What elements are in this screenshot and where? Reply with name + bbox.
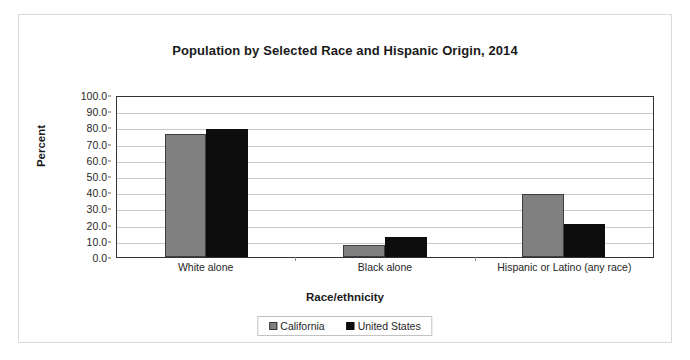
y-tick-label: 50.0 <box>87 171 107 183</box>
bar-united-states <box>564 224 606 257</box>
legend-swatch-icon <box>269 322 277 330</box>
y-tick-mark <box>108 209 111 210</box>
x-axis-title: Race/ethnicity <box>19 291 671 303</box>
y-tick-label: 30.0 <box>87 203 107 215</box>
y-tick-mark <box>108 144 111 145</box>
y-tick-mark <box>108 241 111 242</box>
x-tick-label: White alone <box>178 261 233 273</box>
y-tick-label: 60.0 <box>87 155 107 167</box>
bar-california <box>165 134 207 257</box>
legend-label: United States <box>358 320 421 332</box>
x-tick-mark <box>295 257 296 261</box>
chart-title: Population by Selected Race and Hispanic… <box>19 43 671 58</box>
y-axis-title: Percent <box>35 125 47 167</box>
y-tick-mark <box>108 160 111 161</box>
bar-united-states <box>385 237 427 257</box>
y-tick-mark <box>108 225 111 226</box>
x-axis-labels: White aloneBlack aloneHispanic or Latino… <box>116 261 654 279</box>
legend-swatch-icon <box>347 322 355 330</box>
y-tick-mark <box>108 177 111 178</box>
bar-california <box>522 194 564 257</box>
y-tick-mark <box>108 128 111 129</box>
y-tick-label: 80.0 <box>87 122 107 134</box>
y-tick-label: 40.0 <box>87 187 107 199</box>
bars-layer <box>117 97 653 257</box>
plot-area <box>116 96 654 258</box>
x-tick-label: Hispanic or Latino (any race) <box>497 261 631 273</box>
y-tick-mark <box>108 258 111 259</box>
chart-card: Population by Selected Race and Hispanic… <box>18 14 672 343</box>
y-tick-mark <box>108 112 111 113</box>
y-tick-label: 10.0 <box>87 236 107 248</box>
y-tick-label: 90.0 <box>87 106 107 118</box>
x-tick-mark <box>475 257 476 261</box>
y-tick-label: 0.0 <box>92 252 107 264</box>
plot-wrap <box>116 96 654 258</box>
legend-label: California <box>280 320 324 332</box>
chart-legend: CaliforniaUnited States <box>257 316 432 336</box>
y-tick-mark <box>108 193 111 194</box>
y-tick-label: 70.0 <box>87 139 107 151</box>
legend-entry[interactable]: United States <box>347 320 421 332</box>
y-tick-mark <box>108 96 111 97</box>
legend-entry[interactable]: California <box>269 320 324 332</box>
y-tick-label: 100.0 <box>81 90 107 102</box>
y-axis-labels: 0.010.020.030.040.050.060.070.080.090.01… <box>56 96 111 258</box>
bar-california <box>343 245 385 257</box>
x-tick-label: Black alone <box>358 261 412 273</box>
y-tick-label: 20.0 <box>87 220 107 232</box>
bar-united-states <box>206 129 248 257</box>
